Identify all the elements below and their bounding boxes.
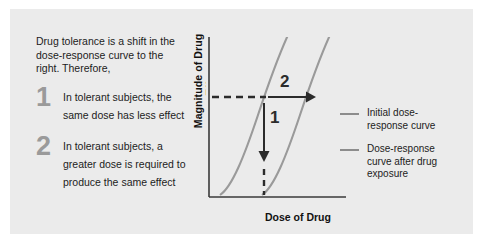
list-item-text: In tolerant subjects, the same dose has … bbox=[63, 91, 184, 121]
explanation-column: Drug tolerance is a shift in the dose-re… bbox=[36, 35, 186, 199]
figure-panel: Drug tolerance is a shift in the dose-re… bbox=[10, 9, 473, 234]
list-item: 1 In tolerant subjects, the same dose ha… bbox=[36, 87, 186, 127]
legend-label-line: response curve bbox=[367, 120, 435, 131]
legend-entry-initial: Initial dose- response curve bbox=[340, 107, 468, 132]
list-marker-2: 2 bbox=[36, 131, 51, 161]
legend-entry-after-exposure: Dose-response curve after drug exposure bbox=[340, 143, 468, 181]
legend-label-line: curve after drug bbox=[367, 156, 437, 167]
chart-legend: Initial dose- response curve Dose-respon… bbox=[340, 107, 468, 192]
dose-response-chart: Magnitude of Drug Effect Dose of Drug bbox=[180, 29, 470, 229]
annotation-label-2: 2 bbox=[280, 72, 289, 91]
list-item: 2 In tolerant subjects, a greater dose i… bbox=[36, 136, 186, 190]
legend-swatch-icon bbox=[340, 113, 359, 115]
list-item-text: In tolerant subjects, a greater dose is … bbox=[63, 140, 186, 188]
plot-svg: 1 2 bbox=[206, 37, 346, 205]
plot-area: 1 2 bbox=[206, 37, 346, 205]
x-axis-label: Dose of Drug bbox=[218, 211, 378, 223]
legend-label-line: Dose-response bbox=[367, 143, 435, 154]
legend-label-line: exposure bbox=[367, 168, 408, 179]
legend-label: Initial dose- response curve bbox=[367, 107, 435, 132]
annotation-label-1: 1 bbox=[270, 108, 279, 127]
legend-label-line: Initial dose- bbox=[367, 107, 418, 118]
legend-swatch-icon bbox=[340, 149, 359, 151]
legend-label: Dose-response curve after drug exposure bbox=[367, 143, 437, 181]
intro-text: Drug tolerance is a shift in the dose-re… bbox=[36, 35, 186, 76]
list-marker-1: 1 bbox=[36, 82, 51, 112]
